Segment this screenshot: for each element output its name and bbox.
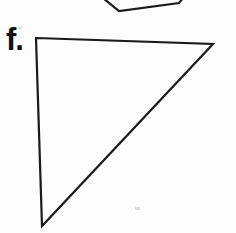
triangle-shape	[36, 38, 213, 226]
partial-polygon-top-edge	[103, 0, 184, 11]
scan-speck	[135, 207, 140, 210]
figure-canvas	[0, 0, 236, 233]
worksheet-figure-page: f.	[0, 0, 236, 233]
scan-speck	[18, 27, 22, 29]
